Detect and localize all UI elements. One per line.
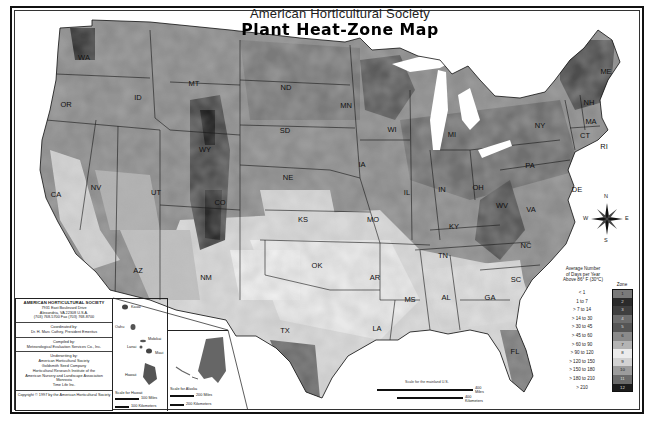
- state-label-wa: WA: [78, 53, 90, 62]
- alaska-inset: Scale for Alaska 200 Miles 200 Kilometer…: [168, 330, 228, 411]
- compass-north: N: [604, 193, 608, 199]
- state-label-va: VA: [526, 205, 535, 214]
- legend-range: > 45 to 60: [555, 332, 609, 341]
- legend-range: > 180 to 210: [555, 375, 609, 384]
- legend-swatch-zone-11: 11: [612, 375, 633, 384]
- state-label-wy: WY: [199, 145, 211, 154]
- state-label-ri: RI: [600, 142, 608, 151]
- map-title: Plant Heat-Zone Map: [235, 21, 445, 39]
- state-label-tx: TX: [280, 326, 290, 335]
- title-block: American Horticultural Society Plant Hea…: [240, 6, 440, 39]
- maui-label: Maui: [155, 351, 163, 355]
- state-label-ut: UT: [151, 188, 161, 197]
- mainland-scale-bar-km: [397, 397, 463, 399]
- compass-east: E: [625, 215, 629, 221]
- legend-swatch-zone-6: 6: [612, 332, 633, 341]
- legend-range: > 60 to 90: [555, 341, 609, 350]
- alaska-scale-miles: 200 Miles: [196, 393, 212, 397]
- state-label-id: ID: [134, 93, 142, 102]
- coordinated-by: Dr. H. Marc Cathey, President Emeritus: [17, 330, 111, 335]
- kauai-label: Kauai: [131, 305, 141, 309]
- compass-west: W: [583, 215, 588, 221]
- legend-range: 1 to 7: [555, 298, 609, 307]
- legend-swatch-zone-3: 3: [612, 306, 633, 315]
- state-label-ct: CT: [580, 131, 590, 140]
- state-label-de: DE: [572, 185, 582, 194]
- legend-swatch-zone-7: 7: [612, 341, 633, 350]
- legend-zone-header: Zone: [611, 282, 633, 287]
- state-label-sd: SD: [280, 126, 291, 135]
- mainland-scale-label: Scale for the mainland U.S.: [405, 380, 449, 384]
- state-label-az: AZ: [133, 266, 143, 275]
- state-label-ia: IA: [358, 160, 365, 169]
- state-label-al: AL: [441, 293, 450, 302]
- legend-title: Average Number of Days per Year Above 86…: [555, 266, 611, 283]
- hawaii-scale-bar-km: [115, 406, 129, 408]
- state-label-ok: OK: [312, 261, 323, 270]
- legend-row: > 21012: [555, 384, 635, 393]
- legend-range: > 7 to 14: [555, 306, 609, 315]
- hawaii-scale-km: 100 Kilometers: [131, 404, 156, 408]
- info-org-section: AMERICAN HORTICULTURAL SOCIETY 7931 East…: [16, 299, 112, 323]
- state-label-mo: MO: [367, 215, 379, 224]
- copyright: Copyright © 1997 by the American Horticu…: [17, 393, 111, 398]
- state-label-wv: WV: [496, 201, 508, 210]
- state-label-ca: CA: [51, 190, 61, 199]
- legend-row: > 90 to 1208: [555, 349, 635, 358]
- faint-caption: [20, 418, 632, 424]
- hawaii-inset: Kauai Oahu Molokai Lanai Maui Hawaii Sca…: [113, 298, 168, 411]
- state-label-ky: KY: [449, 222, 459, 231]
- legend-swatch-zone-5: 5: [612, 323, 633, 332]
- legend-range: > 120 to 150: [555, 358, 609, 367]
- info-panel: AMERICAN HORTICULTURAL SOCIETY 7931 East…: [15, 298, 113, 411]
- phone: (703) 768-5700 Fax (703) 768-8700: [17, 315, 111, 320]
- info-copyright-section: Copyright © 1997 by the American Horticu…: [16, 391, 112, 400]
- state-label-in: IN: [438, 185, 446, 194]
- legend-swatch-zone-1: 1: [612, 289, 633, 298]
- molokai-label: Molokai: [148, 337, 161, 341]
- state-label-sc: SC: [511, 275, 522, 284]
- legend-row: 1 to 72: [555, 298, 635, 307]
- zone-legend: Average Number of Days per Year Above 86…: [555, 256, 641, 408]
- state-label-nv: NV: [91, 183, 101, 192]
- state-label-ny: NY: [535, 121, 545, 130]
- state-label-nd: ND: [281, 83, 292, 92]
- info-compiled-section: Compiled by: Meteorological Evaluation S…: [16, 338, 112, 353]
- legend-row: > 45 to 606: [555, 332, 635, 341]
- state-label-ne: NE: [283, 173, 293, 182]
- alaska-shape: [168, 331, 228, 412]
- legend-range: > 150 to 180: [555, 366, 609, 375]
- alaska-scale-bar-km: [170, 404, 184, 406]
- state-label-nh: NH: [584, 98, 595, 107]
- mainland-scale: Scale for the mainland U.S. 400 Miles 40…: [373, 380, 483, 404]
- legend-row: > 7 to 143: [555, 306, 635, 315]
- legend-row: > 14 to 304: [555, 315, 635, 324]
- state-label-pa: PA: [525, 161, 534, 170]
- compass-icon: [585, 197, 629, 241]
- state-label-fl: FL: [511, 347, 520, 356]
- lanai-label: Lanai: [127, 345, 136, 349]
- legend-row: > 180 to 21011: [555, 375, 635, 384]
- mainland-scale-km: 400 Kilometers: [465, 395, 483, 403]
- legend-range: > 30 to 45: [555, 323, 609, 332]
- info-coordinated-section: Coordinated by: Dr. H. Marc Cathey, Pres…: [16, 323, 112, 338]
- legend-swatch-zone-2: 2: [612, 298, 633, 307]
- state-label-nc: NC: [521, 241, 532, 250]
- legend-range: > 90 to 120: [555, 349, 609, 358]
- legend-range: > 14 to 30: [555, 315, 609, 324]
- state-label-ma: MA: [585, 117, 596, 126]
- state-label-ar: AR: [370, 273, 381, 282]
- oahu-label: Oahu: [115, 325, 124, 329]
- state-label-mt: MT: [189, 79, 200, 88]
- legend-range: < 1: [555, 289, 609, 298]
- state-label-co: CO: [214, 198, 225, 207]
- legend-row: > 150 to 18010: [555, 366, 635, 375]
- alaska-scale-label: Scale for Alaska: [170, 387, 197, 391]
- legend-swatch-zone-4: 4: [612, 315, 633, 324]
- info-underwriting-section: Underwriting by: American Horticultural …: [16, 352, 112, 391]
- state-label-nm: NM: [200, 273, 212, 282]
- state-label-ks: KS: [298, 215, 308, 224]
- state-label-wi: WI: [387, 125, 396, 134]
- hawaii-scale-label: Scale for Hawaii: [115, 391, 142, 395]
- legend-swatch-zone-10: 10: [612, 366, 633, 375]
